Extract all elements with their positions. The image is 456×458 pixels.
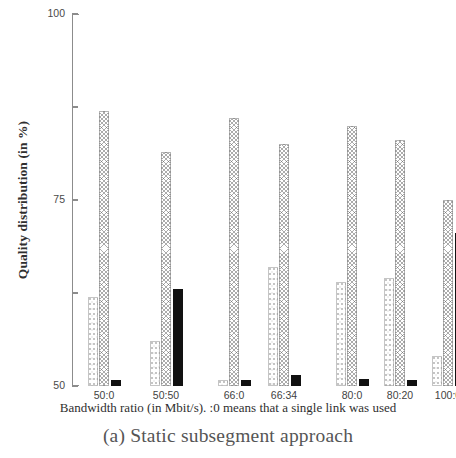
- bar-100-0-series-2: [443, 200, 453, 386]
- plot-area: 0255075100: [72, 14, 456, 386]
- bar-80-0-series-3: [359, 379, 369, 386]
- y-tick-label-100: 100: [47, 7, 65, 19]
- bar-66-34-series-2: [279, 144, 289, 386]
- y-axis-label: Quality distribution (in %): [15, 100, 31, 300]
- bar-50-50-series-2: [161, 152, 171, 386]
- bar-80-20-series-2: [395, 140, 405, 386]
- bar-80-20-series-1: [384, 278, 394, 386]
- bar-50-50-series-1: [150, 341, 160, 386]
- x-axis-label: Bandwidth ratio (in Mbit/s). :0 means th…: [0, 400, 456, 416]
- bar-50-0-series-3: [111, 380, 121, 386]
- bar-66-0-series-1: [218, 380, 228, 386]
- bar-80-20-series-3: [407, 380, 417, 386]
- bar-80-0-series-2: [347, 126, 357, 386]
- bar-50-50-series-3: [173, 289, 183, 386]
- bar-50-0-series-1: [88, 297, 98, 386]
- figure-static-subsegment-approach: Quality distribution (in %) 0255075100 5…: [0, 0, 456, 458]
- bar-66-34-series-1: [268, 267, 278, 386]
- bar-66-0-series-3: [241, 380, 251, 386]
- bar-66-0-series-2: [229, 118, 239, 386]
- y-tick-label-50: 50: [53, 379, 65, 391]
- bar-66-34-series-3: [291, 375, 301, 386]
- bar-100-0-series-1: [432, 356, 442, 386]
- y-tick-label-75: 75: [53, 193, 65, 205]
- bar-80-0-series-1: [336, 282, 346, 386]
- bars-layer: [72, 14, 456, 386]
- figure-caption: (a) Static subsegment approach: [0, 425, 456, 447]
- bar-50-0-series-2: [99, 111, 109, 386]
